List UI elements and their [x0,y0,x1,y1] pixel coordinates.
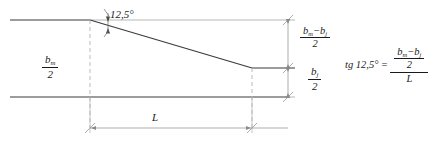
fraction-denominator: 2 [308,80,321,92]
fraction-bm-minus-bj-over-2: bm−bj 2 [300,26,330,50]
equation-row: tg 12,5° = bm−bj 2 L [345,47,428,84]
inner-fraction: bm−bj 2 [394,47,424,71]
left-half-width-label: bm 2 [42,54,58,80]
fraction-bm-over-2: bm 2 [42,54,58,80]
minus-operator: − [313,25,320,36]
subscript-m: m [51,59,56,66]
angle-arrow-head-up [106,28,110,33]
equation-lhs: tg 12,5° [345,60,378,71]
upper-right-dimension-label: bm−bj 2 [300,26,330,50]
inner-numerator: bm−bj [394,47,424,59]
tangent-equation: tg 12,5° = bm−bj 2 L [345,47,428,84]
fraction-numerator: bm [42,54,58,68]
fraction-numerator: bm−bj [300,26,330,38]
equals-sign: = [381,60,387,71]
subscript-j: j [325,30,327,37]
length-label: L [152,112,158,123]
subscript-j: j [420,51,422,58]
taper-sloped-line [90,20,252,68]
subscript-j: j [317,71,319,78]
fraction-numerator: bj [308,66,321,80]
fraction-denominator: 2 [300,38,330,50]
angle-leader-tick-lower [104,30,109,37]
fraction-bj-over-2: bj 2 [308,66,321,92]
angle-leader-tick [104,9,109,16]
tangent-function-name: tg [345,59,353,70]
equation-angle: 12,5° [356,59,379,70]
fraction-denominator: 2 [42,68,58,80]
equation-denominator: L [390,73,428,85]
equation-main-fraction: bm−bj 2 L [390,47,428,84]
angle-label: 12,5° [110,9,134,20]
lower-right-dimension-label: bj 2 [308,66,321,92]
equation-numerator: bm−bj 2 [390,47,428,73]
inner-denominator: 2 [394,59,424,71]
taper-diagram: 12,5° bm 2 bm−bj 2 bj 2 L tg 12,5° = [0,0,448,143]
